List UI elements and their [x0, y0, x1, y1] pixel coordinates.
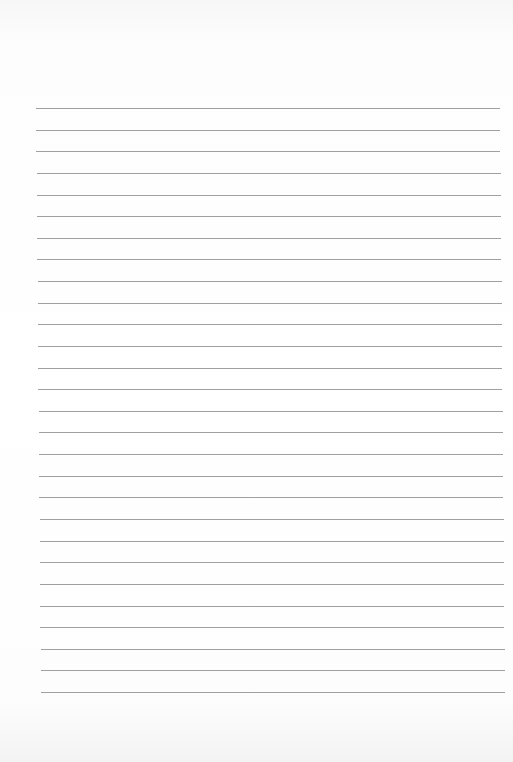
ruled-line	[37, 216, 501, 217]
ruled-line	[37, 238, 501, 239]
ruled-line	[39, 497, 503, 498]
ruled-line	[38, 346, 502, 347]
ruled-line	[38, 389, 502, 390]
ruled-line	[40, 519, 504, 520]
ruled-line	[40, 584, 504, 585]
ruled-line	[39, 454, 503, 455]
ruled-line	[36, 151, 500, 152]
ruled-line	[39, 411, 503, 412]
ruled-line	[38, 281, 502, 282]
ruled-line	[40, 562, 504, 563]
ruled-line	[38, 324, 502, 325]
ruled-line	[39, 432, 503, 433]
ruled-line	[36, 130, 500, 131]
ruled-line	[38, 368, 502, 369]
ruled-line	[40, 541, 504, 542]
ruled-lines	[0, 0, 513, 762]
ruled-line	[41, 692, 505, 693]
ruled-line	[40, 606, 504, 607]
ruled-line	[37, 195, 501, 196]
ruled-line	[37, 173, 501, 174]
ruled-line	[39, 476, 503, 477]
ruled-line	[37, 259, 501, 260]
ruled-line	[38, 303, 502, 304]
ruled-line	[41, 649, 505, 650]
ruled-line	[41, 670, 505, 671]
ruled-line	[40, 627, 504, 628]
ruled-line	[36, 108, 500, 109]
lined-paper-page	[0, 0, 513, 762]
